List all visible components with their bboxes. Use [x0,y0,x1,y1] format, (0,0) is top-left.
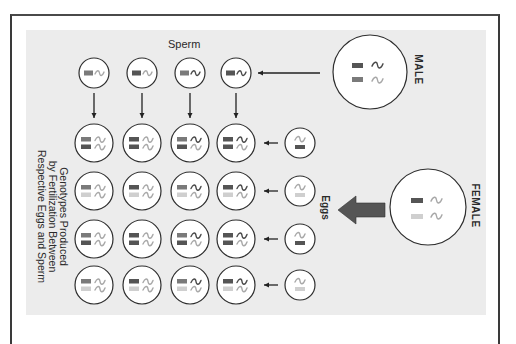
sperm-cell [175,58,205,88]
chromosome-bar [223,193,233,198]
chromosome-bar [81,233,91,238]
zygote-cell [217,124,255,162]
egg-cell [285,224,315,254]
chromosome-bar [129,137,139,142]
female-to-eggs-arrow [338,196,385,224]
chromosome-bar [177,185,187,190]
chromosome-bar [129,279,139,284]
zygote-cell [123,172,161,210]
sperm-cell [221,58,251,88]
zygote-cell [217,266,255,304]
chromosome-bar [177,241,187,246]
egg-cell [285,176,315,206]
chromosome-bar [132,71,141,76]
arrowhead-icon [140,113,145,118]
chromosome-bar [226,71,235,76]
chromosome-bar [177,193,187,198]
chromosome-bar [177,279,187,284]
chromosome-bar [81,193,91,198]
chromosome-bar [129,193,139,198]
chromosome-bar [223,185,233,190]
zygote-cell [123,124,161,162]
chromosome-bar [81,137,91,142]
chromosome-bar [295,145,305,149]
zygote-cell [123,266,161,304]
chromosome-bar [223,241,233,246]
chromosome-bar [177,287,187,292]
chromosome-bar [411,198,423,203]
zygote-cell [75,172,113,210]
sperm-cell [127,58,157,88]
zygote-cell [171,266,209,304]
egg-cell [285,270,315,300]
arrowhead-icon [188,113,193,118]
male-label: MALE [413,54,424,84]
zygote-cell [217,220,255,258]
chromosome-bar [295,241,305,245]
zygote-cell [171,172,209,210]
chromosome-bar [295,193,305,197]
zygote-cell [171,220,209,258]
zygote-cell [217,172,255,210]
chromosome-bar [177,233,187,238]
arrowhead-icon [264,283,269,288]
chromosome-bar [81,185,91,190]
genotypes-caption: Genotypes Produced by Fertilization Betw… [36,137,69,297]
chromosome-bar [223,287,233,292]
eggs-label: Eggs [320,195,331,219]
chromosome-bar [223,145,233,150]
chromosome-bar [81,279,91,284]
arrowhead-icon [234,113,239,118]
chromosome-bar [81,241,91,246]
zygote-cell [123,220,161,258]
chromosome-bar [180,71,189,76]
zygote-cell [171,124,209,162]
caption-line-2: by Fertilization Between [47,137,58,297]
chromosome-bar [81,287,91,292]
arrowhead-icon [264,237,269,242]
zygote-cell [75,220,113,258]
chromosome-bar [177,137,187,142]
arrowhead-icon [264,189,269,194]
chromosome-bar [129,233,139,238]
chromosome-bar [177,145,187,150]
chromosome-bar [129,287,139,292]
arrowhead-icon [264,141,269,146]
chromosome-bar [129,241,139,246]
chromosome-bar [295,287,305,291]
zygote-cell [75,124,113,162]
zygote-cell [75,266,113,304]
chromosome-bar [223,137,233,142]
chromosome-bar [223,233,233,238]
caption-line-3: Respective Eggs and Sperm [36,137,47,297]
chromosome-bar [129,185,139,190]
chromosome-bar [129,145,139,150]
chromosome-bar [352,63,363,68]
male-cell [333,35,407,109]
chromosome-bar [352,77,363,82]
chromosome-bar [411,214,423,219]
female-label: FEMALE [470,183,481,227]
sperm-label: Sperm [168,38,200,50]
chromosome-bar [81,145,91,150]
arrowhead-icon [92,113,97,118]
female-cell [390,169,466,245]
chromosome-bar [223,279,233,284]
arrowhead-icon [258,71,263,76]
egg-cell [285,128,315,158]
sperm-cell [79,58,109,88]
chromosome-bar [84,71,93,76]
caption-line-1: Genotypes Produced [58,137,69,297]
